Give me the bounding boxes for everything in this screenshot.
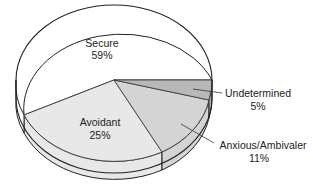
label-avoidant-pct: 25% [89, 129, 110, 141]
label-anxious: Anxious/Ambivaler [220, 139, 307, 151]
label-secure: Secure [85, 37, 118, 49]
label-undetermined-pct: 5% [250, 100, 265, 112]
label-avoidant: Avoidant [80, 116, 121, 128]
label-anxious-pct: 11% [249, 152, 269, 164]
label-undetermined: Undetermined [225, 87, 291, 99]
pie-chart: Secure 59% Avoidant 25% Undetermined 5% … [0, 0, 313, 192]
label-secure-pct: 59% [91, 49, 112, 61]
